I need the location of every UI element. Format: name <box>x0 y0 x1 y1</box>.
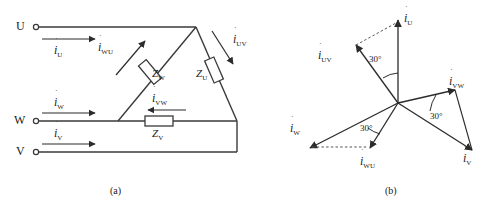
impedance-box-zu <box>205 57 224 83</box>
angle-label-lower-right: 30° <box>430 112 443 121</box>
terminal-label-v: V <box>16 145 25 157</box>
arc-angle-upper <box>383 73 398 78</box>
phasor-label-i-vw: ˙ iVW <box>449 75 464 90</box>
current-label-i-wu: ˙ iWU <box>98 41 113 56</box>
phasor-label-i-w: ˙ iW <box>290 122 300 137</box>
circuit-wires <box>33 24 237 154</box>
phasor-construction-lines <box>312 23 396 147</box>
phasor-i-vw <box>398 90 455 103</box>
phasor-label-i-uv: ˙ iUV <box>318 49 331 64</box>
figure-root: U W V ˙ iU ˙ iW ˙ iV ˙ iWU ˙ iUV ˙ iVW Z… <box>0 0 493 211</box>
impedance-label-zu: ZU <box>196 68 207 82</box>
arc-angle-lower-right <box>430 95 436 111</box>
impedance-label-zv: ZV <box>152 128 163 142</box>
phasor-i-w <box>310 103 398 148</box>
impedance-label-zw: ZW <box>152 68 165 82</box>
terminal-dot-w <box>33 118 38 123</box>
dashed-uv-to-u <box>356 23 396 45</box>
current-label-i-u: ˙ iU <box>54 44 62 59</box>
phasor-label-i-v: ˙ iV <box>463 152 471 167</box>
phasor-vectors <box>310 20 472 150</box>
current-label-i-w: ˙ iW <box>54 96 64 111</box>
current-label-i-uv: ˙ iUV <box>233 33 246 48</box>
figure-svg <box>0 0 493 211</box>
caption-b: (b) <box>385 186 397 196</box>
angle-label-lower-left: 30° <box>360 124 373 133</box>
circuit-current-arrows <box>42 31 233 144</box>
terminal-dot-u <box>33 24 38 29</box>
phasor-angle-arcs <box>368 73 436 134</box>
angle-label-upper: 30° <box>369 55 382 64</box>
arrow-i-wu <box>116 41 145 75</box>
phasor-label-i-u: ˙ iU <box>404 12 412 27</box>
current-label-i-v: ˙ iV <box>54 127 62 142</box>
terminal-label-w: W <box>14 114 25 126</box>
impedance-box-zv <box>145 116 173 126</box>
caption-a: (a) <box>110 186 121 196</box>
phasor-label-i-wu: ˙ iWU <box>360 155 375 170</box>
terminal-label-u: U <box>16 20 25 32</box>
current-label-i-vw: ˙ iVW <box>152 92 167 107</box>
terminal-dot-v <box>33 149 38 154</box>
